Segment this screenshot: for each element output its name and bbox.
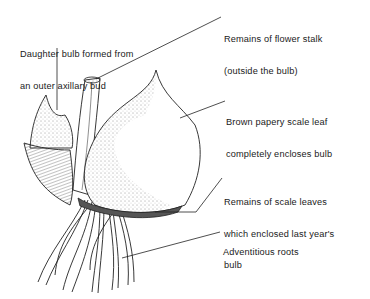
label-line: (outside the bulb) — [224, 66, 322, 77]
label-line: completely encloses bulb — [226, 149, 332, 160]
label-scale-leaf: Brown papery scale leaf completely enclo… — [226, 96, 332, 170]
label-daughter-bulb: Daughter bulb formed from an outer axill… — [20, 28, 134, 102]
label-line: Adventitious roots — [223, 247, 299, 258]
label-line: Remains of scale leaves — [224, 197, 334, 208]
label-line: Daughter bulb formed from — [20, 49, 134, 60]
leader-roots — [122, 232, 220, 258]
daughter-bulb-drawing — [24, 95, 73, 205]
leader-scale — [180, 101, 225, 118]
label-flower-stalk: Remains of flower stalk (outside the bul… — [224, 13, 322, 87]
label-line: Remains of flower stalk — [224, 34, 322, 45]
label-line: an outer axillary bud — [20, 81, 134, 92]
label-line: Brown papery scale leaf — [226, 117, 332, 128]
label-adventitious-roots: Adventitious roots — [223, 226, 299, 268]
